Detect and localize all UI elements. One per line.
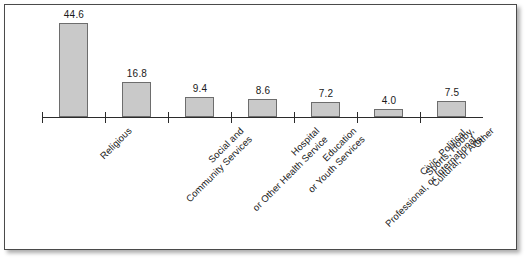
x-axis-tick — [42, 112, 43, 123]
bar[interactable] — [437, 101, 466, 117]
category-label: Religious — [98, 125, 134, 161]
category-label-line: Religious — [98, 125, 134, 161]
plot-area: 44.616.89.48.67.24.07.5 ReligiousSocial … — [0, 0, 529, 264]
bar[interactable] — [122, 82, 151, 117]
x-axis-tick — [105, 112, 106, 123]
bar[interactable] — [248, 99, 277, 117]
chart-figure: 44.616.89.48.67.24.07.5 ReligiousSocial … — [0, 0, 529, 264]
bar-value-label: 9.4 — [175, 83, 225, 94]
bar-value-label: 16.8 — [112, 68, 162, 79]
x-axis-tick — [420, 112, 421, 123]
bar-value-label: 7.2 — [301, 88, 351, 99]
bar[interactable] — [59, 23, 88, 117]
bar[interactable] — [185, 97, 214, 117]
x-axis-tick — [357, 112, 358, 123]
bar-value-label: 8.6 — [238, 85, 288, 96]
bar-value-label: 7.5 — [427, 87, 477, 98]
x-axis-tick — [294, 112, 295, 123]
x-axis-tick — [231, 112, 232, 123]
bar[interactable] — [374, 109, 403, 117]
bar-value-label: 44.6 — [49, 9, 99, 20]
category-label: Social andCommunity Services — [175, 125, 254, 204]
category-label: Other — [471, 125, 496, 150]
category-label-line: Other — [471, 125, 496, 150]
x-axis-baseline — [42, 117, 483, 118]
bar[interactable] — [311, 102, 340, 117]
bar-value-label: 4.0 — [364, 95, 414, 106]
x-axis-tick — [168, 112, 169, 123]
